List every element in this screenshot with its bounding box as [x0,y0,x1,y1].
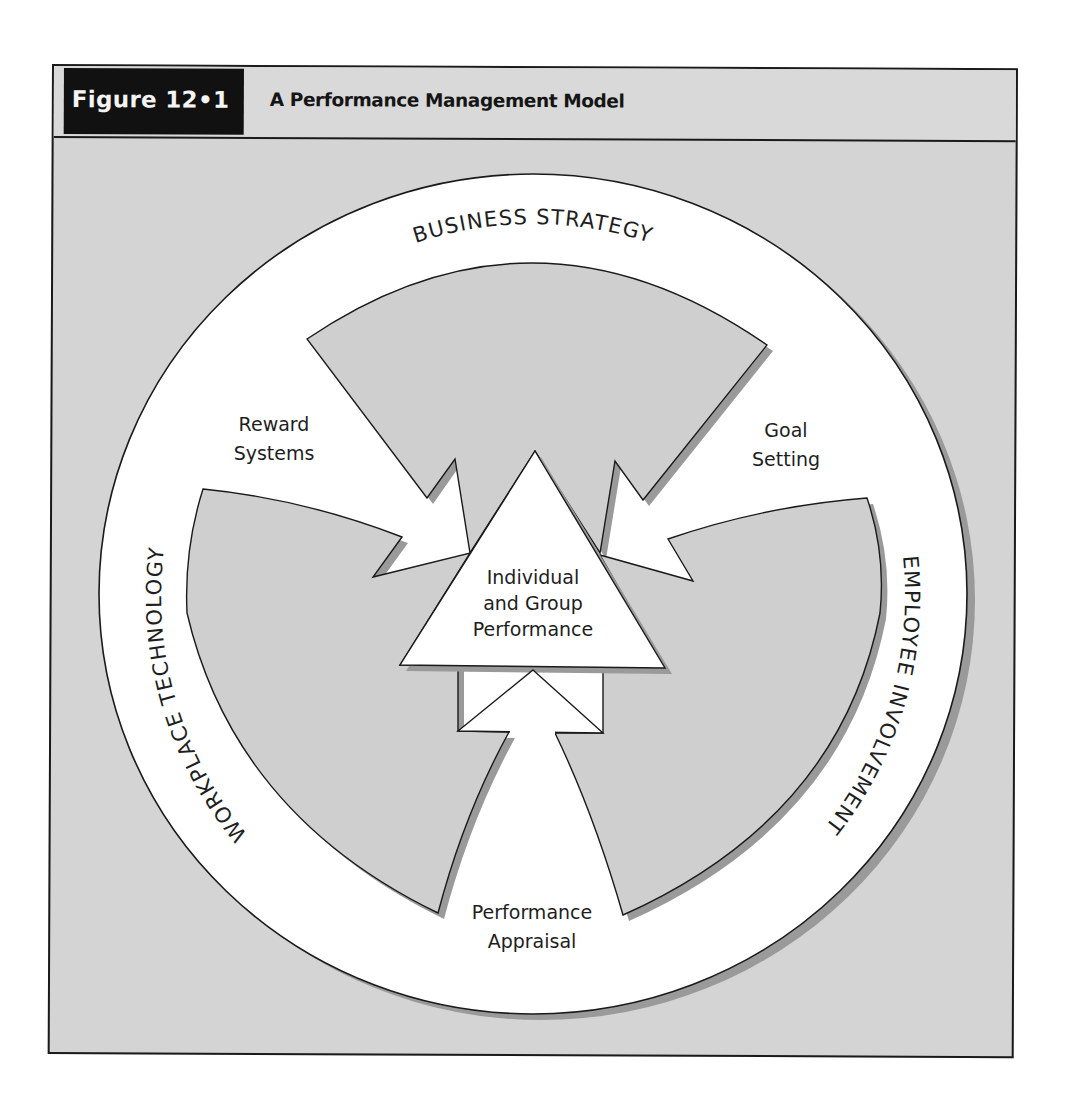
center-label-line-1: Individual [487,566,580,588]
center-label-line-3: Performance [473,618,593,640]
reward-label-line-1: Reward [239,413,310,435]
appraisal-label-line-1: Performance [472,901,592,923]
goal-label-line-2: Setting [752,448,820,470]
bottom-arrow-shaft-cover [510,730,555,736]
center-label-line-2: and Group [483,592,583,614]
figure: Figure 12•1 A Performance Management Mod… [0,0,1065,1116]
goal-label-line-1: Goal [764,419,807,441]
reward-label-line-2: Systems [234,442,315,464]
appraisal-label-line-2: Appraisal [488,930,577,952]
performance-model-diagram: Individual and Group Performance Reward … [0,0,1065,1116]
